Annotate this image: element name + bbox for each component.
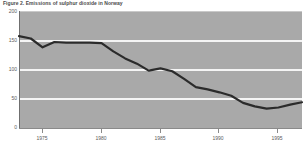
x-tick-mark-1990	[218, 129, 219, 133]
x-tick-mark-1985	[160, 129, 161, 133]
x-tick-mark-1975	[42, 129, 43, 133]
y-tick-label-0: 0	[1, 125, 17, 130]
y-tick-label-50: 50	[1, 96, 17, 101]
figure-title: Figure 2. Emissions of sulphur dioxide i…	[3, 0, 123, 7]
x-tick-label-1990: 1990	[205, 136, 231, 141]
x-tick-label-1975: 1975	[29, 136, 55, 141]
x-tick-label-1980: 1980	[88, 136, 114, 141]
y-tick-label-100: 100	[1, 67, 17, 72]
x-tick-mark-1995	[277, 129, 278, 133]
x-tick-label-1995: 1995	[264, 136, 290, 141]
x-tick-mark-1980	[101, 129, 102, 133]
data-series-layer	[19, 11, 302, 128]
y-tick-label-200: 200	[1, 9, 17, 14]
x-tick-label-1985: 1985	[147, 136, 173, 141]
series-line-sulphur-dioxide	[19, 36, 302, 109]
figure-container: Figure 2. Emissions of sulphur dioxide i…	[0, 0, 304, 148]
y-tick-label-150: 150	[1, 38, 17, 43]
